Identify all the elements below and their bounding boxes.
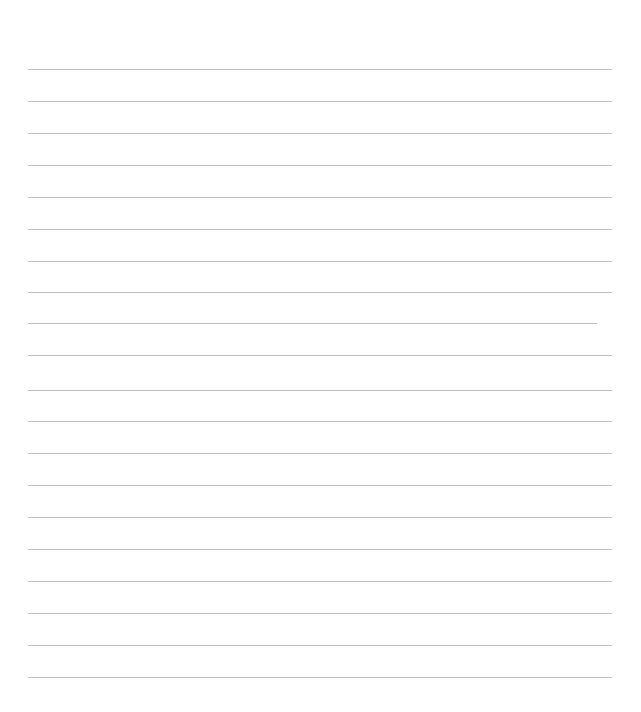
ruled-line xyxy=(28,229,612,230)
ruled-line xyxy=(28,677,612,678)
ruled-line xyxy=(28,453,612,454)
ruled-line xyxy=(28,165,612,166)
ruled-line xyxy=(28,581,612,582)
ruled-line xyxy=(28,613,612,614)
ruled-line xyxy=(28,197,612,198)
ruled-line xyxy=(28,69,612,70)
ruled-line xyxy=(28,390,612,391)
ruled-line xyxy=(28,421,612,422)
ruled-line xyxy=(28,549,612,550)
ruled-line xyxy=(28,292,612,293)
ruled-line xyxy=(28,323,597,324)
ruled-line xyxy=(28,355,612,356)
ruled-line xyxy=(28,517,612,518)
ruled-line xyxy=(28,261,612,262)
ruled-line xyxy=(28,101,612,102)
lined-paper-page xyxy=(0,0,641,712)
ruled-line xyxy=(28,645,612,646)
ruled-line xyxy=(28,133,612,134)
ruled-line xyxy=(28,485,612,486)
